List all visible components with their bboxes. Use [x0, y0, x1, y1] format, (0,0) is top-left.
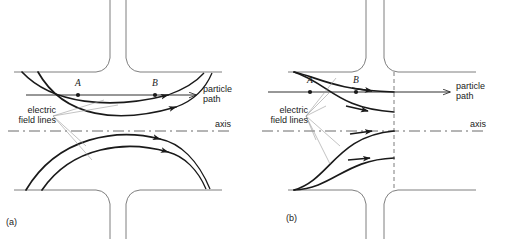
label-axis-b: axis	[470, 119, 486, 129]
field-lines-lower-b	[294, 131, 394, 190]
electrode-upper-left	[14, 0, 110, 72]
electrode-b-upper-left	[288, 0, 366, 72]
panel-caption-a: (a)	[6, 217, 17, 227]
point-b-marker	[153, 93, 157, 97]
diagram-canvas	[0, 0, 506, 239]
electrodes-b	[288, 0, 476, 239]
label-particle-path: particle path	[203, 84, 232, 104]
label-point-b: B	[152, 78, 158, 88]
label-point-a: A	[75, 78, 81, 88]
label-axis: axis	[215, 119, 231, 129]
field-lines-lower-tails-a	[160, 139, 210, 189]
electrode-b-lower-left	[288, 190, 366, 239]
point-b-marker-b	[354, 90, 358, 94]
field-line-a-l2	[26, 135, 160, 190]
label-electric-field-lines: electric field lines	[10, 105, 56, 125]
point-a-marker-b	[308, 90, 312, 94]
electrode-b-lower-right	[384, 190, 476, 239]
label-point-a-b: A	[307, 75, 313, 85]
panel-caption-b: (b)	[286, 213, 297, 223]
label-electric-field-lines-b: electric field lines	[262, 105, 308, 125]
electrode-lower-left	[14, 190, 110, 239]
electrode-lower-right	[126, 190, 222, 239]
label-point-b-b: B	[353, 75, 359, 85]
electrode-upper-right	[126, 0, 222, 72]
figure-container: A B electric field lines particle path a…	[0, 0, 506, 239]
field-line-b-l2	[294, 158, 394, 190]
field-line-b-l1	[294, 131, 394, 190]
label-particle-path-b: particle path	[456, 81, 485, 101]
field-line-a-u1	[22, 72, 168, 103]
field-lines-lower-a	[26, 135, 168, 190]
point-a-marker	[76, 93, 80, 97]
electrode-b-upper-right	[384, 0, 476, 72]
